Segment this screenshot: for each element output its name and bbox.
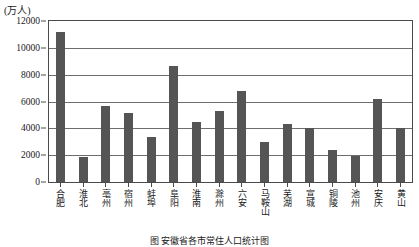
x-axis-tick-slot [140, 183, 163, 187]
x-axis-label-slot: 宿州 [117, 189, 140, 235]
x-axis-tick-slot [344, 183, 367, 187]
x-axis-label-slot: 淮南 [185, 189, 208, 235]
x-axis-category-label: 六安 [237, 189, 246, 235]
x-axis-tick-slot [94, 183, 117, 187]
x-axis-label-slot: 安庆 [367, 189, 390, 235]
x-axis-tick-slot [276, 183, 299, 187]
x-axis-category-label: 蚌埠 [147, 189, 156, 235]
bar [79, 157, 88, 182]
x-axis-tick-mark [105, 183, 106, 187]
x-axis-category-label: 安庆 [373, 189, 382, 235]
bar [328, 150, 337, 182]
x-axis-tick-slot [231, 183, 254, 187]
x-axis-tick-mark [377, 183, 378, 187]
x-axis-label-slot: 宣城 [299, 189, 322, 235]
x-axis-label-slot: 铜陵 [321, 189, 344, 235]
bar-slot [117, 21, 140, 182]
x-axis-tick-marks [49, 183, 412, 187]
x-axis-tick-slot [49, 183, 72, 187]
x-axis-label-slot: 蚌埠 [140, 189, 163, 235]
x-axis-label-slot: 滁州 [208, 189, 231, 235]
x-axis-tick-mark [400, 183, 401, 187]
bar-slot [208, 21, 231, 182]
bar-slot [185, 21, 208, 182]
bar-slot [344, 21, 367, 182]
bar [373, 99, 382, 182]
x-axis-tick-mark [355, 183, 356, 187]
x-axis-tick-mark [128, 183, 129, 187]
bar [192, 122, 201, 182]
bar [396, 128, 405, 182]
y-axis-tick-mark [41, 128, 46, 129]
x-axis-tick-slot [253, 183, 276, 187]
x-axis-tick-slot [72, 183, 95, 187]
bar-slot [321, 21, 344, 182]
bar [101, 106, 110, 182]
x-axis-tick-mark [219, 183, 220, 187]
bar-slot [49, 21, 72, 182]
y-axis-tick-mark [41, 47, 46, 48]
bar-slot [253, 21, 276, 182]
y-axis-tick-label: 2000 [21, 150, 40, 160]
y-axis-tick-label: 12000 [16, 16, 40, 26]
y-axis-tick-label: 10000 [16, 43, 40, 53]
x-axis-tick-mark [309, 183, 310, 187]
x-axis-tick-mark [241, 183, 242, 187]
y-axis-tick-label: 4000 [21, 123, 40, 133]
x-axis-label-slot: 池州 [344, 189, 367, 235]
x-axis-label-slot: 合肥 [49, 189, 72, 235]
bar-slot [367, 21, 390, 182]
bar-slot [94, 21, 117, 182]
bar-slot [389, 21, 412, 182]
x-axis-category-labels: 合肥淮北亳州宿州蚌埠阜阳淮南滁州六安马鞍山芜湖宣城铜陵池州安庆黄山 [49, 189, 412, 235]
x-axis-label-slot: 黄山 [389, 189, 412, 235]
x-axis-tick-slot [321, 183, 344, 187]
bar [260, 142, 269, 182]
bar-slot [72, 21, 95, 182]
x-axis-tick-mark [196, 183, 197, 187]
x-axis-tick-mark [60, 183, 61, 187]
x-axis-label-slot: 芜湖 [276, 189, 299, 235]
x-axis-category-label: 马鞍山 [260, 189, 269, 235]
bar [305, 128, 314, 182]
x-axis-category-label: 宿州 [124, 189, 133, 235]
x-axis-label-slot: 六安 [231, 189, 254, 235]
y-axis-tick-mark [41, 182, 46, 183]
y-axis-tick-mark [41, 155, 46, 156]
x-axis-tick-mark [151, 183, 152, 187]
bar [237, 91, 246, 182]
bar [283, 124, 292, 182]
x-axis-category-label: 池州 [351, 189, 360, 235]
bar-series [49, 21, 412, 182]
y-axis-tick-label: 0 [35, 177, 40, 187]
x-axis-tick-slot [185, 183, 208, 187]
bar-slot [276, 21, 299, 182]
y-axis-tick-label: 8000 [21, 70, 40, 80]
bar [215, 111, 224, 182]
bar-slot [162, 21, 185, 182]
x-axis-tick-mark [264, 183, 265, 187]
x-axis-tick-mark [332, 183, 333, 187]
bar [169, 66, 178, 182]
x-axis-label-slot: 亳州 [94, 189, 117, 235]
x-axis-category-label: 滁州 [215, 189, 224, 235]
x-axis-tick-mark [83, 183, 84, 187]
y-axis-unit-label: (万人) [4, 2, 31, 17]
x-axis-label-slot: 阜阳 [162, 189, 185, 235]
bar [124, 113, 133, 182]
x-axis-tick-slot [367, 183, 390, 187]
bar [351, 156, 360, 182]
x-axis-tick-mark [287, 183, 288, 187]
x-axis-category-label: 铜陵 [328, 189, 337, 235]
x-axis-category-label: 合肥 [56, 189, 65, 235]
x-axis-label-slot: 马鞍山 [253, 189, 276, 235]
bar [56, 32, 65, 182]
x-axis-tick-slot [299, 183, 322, 187]
x-axis-tick-slot [117, 183, 140, 187]
x-axis-tick-slot [208, 183, 231, 187]
figure-caption: 图 安徽省各市常住人口统计图 [0, 234, 419, 247]
x-axis-tick-slot [389, 183, 412, 187]
x-axis-label-slot: 淮北 [72, 189, 95, 235]
x-axis-category-label: 芜湖 [283, 189, 292, 235]
